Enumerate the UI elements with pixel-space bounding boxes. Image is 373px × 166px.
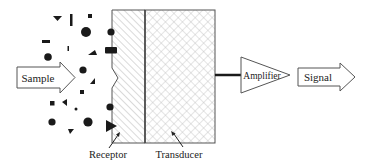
amplifier: Amplifier xyxy=(241,57,290,93)
bound-circle-icon xyxy=(106,103,113,110)
analyte-bar-icon xyxy=(70,14,73,26)
analyte-circle-icon xyxy=(83,117,92,126)
receptor-label: Receptor xyxy=(89,149,127,160)
transducer-layer xyxy=(145,10,215,143)
analyte-square-icon xyxy=(80,90,84,94)
amplifier-label: Amplifier xyxy=(243,71,281,81)
receptor-layer xyxy=(112,10,145,143)
analyte-triangle-icon xyxy=(68,129,74,134)
analyte-triangle-icon xyxy=(53,16,62,21)
analyte-circle-icon xyxy=(48,118,55,125)
analyte-circle-icon xyxy=(81,27,91,37)
signal-label: Signal xyxy=(304,71,332,83)
analyte-triangle-icon xyxy=(88,50,97,55)
analyte-dot-icon xyxy=(75,108,78,111)
analyte-square-icon xyxy=(88,14,92,18)
bound-rectangle-icon xyxy=(105,47,117,54)
analyte-tick-icon xyxy=(68,46,70,51)
transducer-label: Transducer xyxy=(156,149,203,160)
analyte-triangle-icon xyxy=(62,99,67,106)
analyte-circle-icon xyxy=(44,53,52,61)
analyte-bar-icon xyxy=(42,40,50,43)
signal-arrow: Signal xyxy=(298,63,355,91)
biosensor-diagram: Sample Receptor Transducer Amplifier Sig… xyxy=(0,0,373,166)
sample-label: Sample xyxy=(22,72,55,84)
analyte-circle-icon xyxy=(79,66,86,73)
bound-circle-icon xyxy=(107,28,114,35)
analyte-triangle-icon xyxy=(90,78,95,84)
sample-arrow: Sample xyxy=(17,62,75,93)
analyte-square-icon xyxy=(50,101,55,106)
